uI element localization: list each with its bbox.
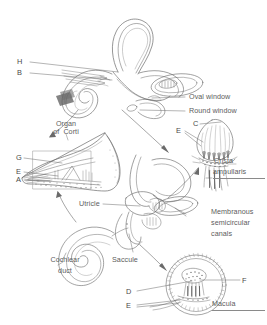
label-membranous-line2: semicircular (211, 219, 250, 228)
leader-g (24, 158, 62, 163)
key-label-g: G (16, 154, 22, 162)
bony-labyrinth-group (56, 19, 204, 119)
label-saccule: Saccule (112, 256, 138, 265)
label-oval-window: Oval window (189, 93, 230, 102)
leader-utricle (103, 204, 140, 206)
leader-c (200, 122, 221, 124)
label-crista-line1: Crista (214, 157, 233, 166)
label-cochlear-duct-line1: Cochlear (38, 256, 92, 265)
key-label-a: A (16, 176, 21, 184)
label-membranous-line3: canals (211, 230, 232, 239)
key-label-e-macula: E (126, 302, 131, 310)
key-label-d: D (126, 288, 131, 296)
label-round-window: Round window (189, 107, 237, 116)
leader-b (30, 73, 112, 80)
leader-round-window (140, 110, 185, 111)
leader-d (137, 281, 192, 291)
key-label-c: C (193, 120, 198, 128)
label-cochlear-duct-line2: duct (38, 267, 92, 276)
figure-canvas: H B Oval window Round window Organ of Co… (0, 0, 267, 325)
organ-of-corti-group (22, 133, 120, 191)
key-label-b: B (17, 69, 22, 77)
leader-h (30, 62, 118, 72)
label-membranous-line1: Membranous (211, 208, 253, 217)
label-crista-line2: ampullaris (213, 168, 265, 179)
label-utricle: Utricle (79, 200, 100, 209)
leader-e-macula (137, 300, 180, 305)
key-label-e-crista: E (176, 127, 181, 135)
key-label-f: F (242, 277, 247, 285)
label-organ-of-corti-line2: of Corti (40, 128, 92, 137)
key-label-h: H (17, 58, 22, 66)
label-macula: Macula (212, 300, 265, 311)
crista-bracket (206, 170, 212, 178)
